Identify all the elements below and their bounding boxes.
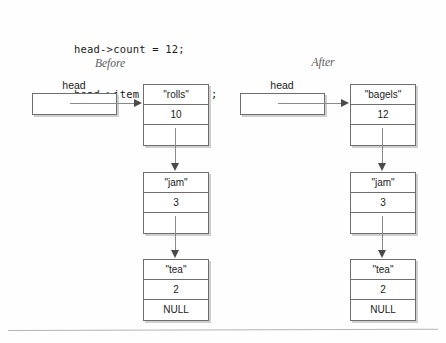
node-item-cell: "jam": [351, 173, 415, 193]
node-before-3: "tea" 2 NULL: [143, 259, 209, 321]
node-item-cell: "jam": [144, 173, 208, 193]
node-before-1: "rolls" 10: [143, 84, 209, 146]
next-link-line-after-1: [382, 128, 383, 164]
next-link-arrowhead-after-1: [378, 163, 386, 171]
node-count-cell: 3: [144, 193, 208, 213]
node-count-cell: 12: [351, 105, 415, 125]
next-link-line-before-2: [175, 216, 176, 251]
head-label-after: head: [240, 79, 324, 91]
code-line-1: head->count = 12;: [74, 42, 217, 57]
head-pointer-line-before: [70, 103, 140, 104]
next-link-arrowhead-after-2: [378, 250, 386, 258]
next-link-arrowhead-before-2: [171, 250, 179, 258]
head-pointer-box-after: [240, 93, 325, 115]
node-count-cell: 3: [351, 193, 415, 213]
node-count-cell: 2: [144, 280, 208, 300]
node-next-cell: [144, 213, 208, 233]
node-next-cell: [351, 213, 415, 233]
node-after-1: "bagels" 12: [350, 84, 416, 146]
head-pointer-box-before: [32, 93, 117, 115]
node-item-cell: "tea": [144, 260, 208, 280]
node-next-cell: NULL: [144, 300, 208, 320]
node-after-2: "jam" 3: [350, 172, 416, 234]
next-link-arrowhead-before-1: [171, 163, 179, 171]
head-pointer-arrowhead-before: [134, 99, 142, 107]
node-next-cell: [144, 125, 208, 145]
caption-after: After: [283, 56, 363, 68]
node-item-cell: "tea": [351, 260, 415, 280]
node-item-cell: "rolls": [144, 85, 208, 105]
node-before-2: "jam" 3: [143, 172, 209, 234]
node-count-cell: 2: [351, 280, 415, 300]
node-next-cell: NULL: [351, 300, 415, 320]
page-divider-rule: [8, 329, 438, 331]
head-pointer-arrowhead-after: [341, 99, 349, 107]
node-count-cell: 10: [144, 105, 208, 125]
head-pointer-line-after: [278, 103, 347, 104]
caption-before: Before: [70, 57, 150, 69]
node-item-cell: "bagels": [351, 85, 415, 105]
next-link-line-before-1: [175, 128, 176, 164]
linked-list-diagram: head->count = 12; head->item = "bagels";…: [0, 0, 446, 343]
node-after-3: "tea" 2 NULL: [350, 259, 416, 321]
head-label-before: head: [32, 79, 116, 91]
next-link-line-after-2: [382, 216, 383, 251]
node-next-cell: [351, 125, 415, 145]
